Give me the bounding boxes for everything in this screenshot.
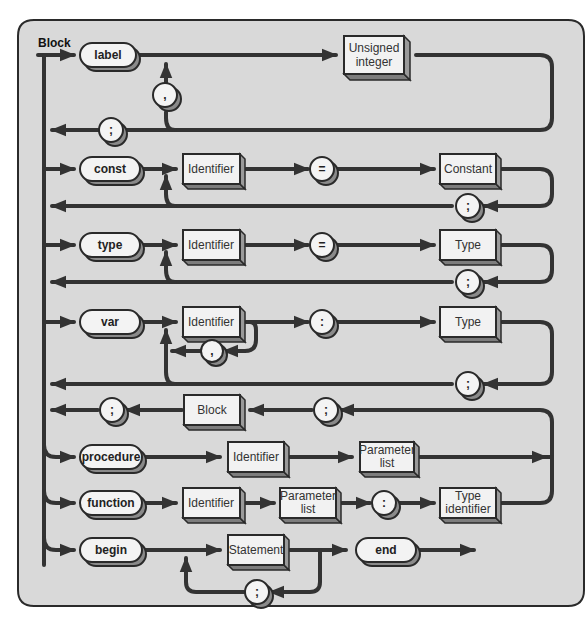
svg-text:Parameter: Parameter [359, 443, 415, 457]
svg-text:;: ; [109, 123, 113, 137]
parameter-list-box: Parameter list [280, 488, 341, 523]
svg-text:,: , [163, 88, 166, 102]
parameter-list-box: Parameter list [359, 442, 419, 477]
svg-text:Type: Type [455, 238, 481, 252]
svg-text:const: const [94, 162, 126, 176]
svg-text:Unsigned: Unsigned [349, 41, 400, 55]
svg-text:Identifier: Identifier [188, 162, 234, 176]
keyword-begin-pill: begin [80, 538, 146, 566]
block-syntax-diagram: Block label Unsigned integer , [0, 0, 588, 644]
keyword-var-pill: var [80, 310, 144, 338]
svg-text:begin: begin [95, 543, 127, 557]
svg-text:list: list [380, 456, 395, 470]
svg-text::: : [382, 496, 386, 510]
svg-text:var: var [101, 315, 119, 329]
svg-text:procedure: procedure [82, 450, 141, 464]
svg-text:,: , [210, 344, 213, 358]
constant-box: Constant [440, 154, 501, 189]
block-box: Block [184, 395, 245, 430]
svg-text:Identifier: Identifier [233, 450, 279, 464]
svg-text:=: = [318, 238, 325, 252]
identifier-box: Identifier [228, 442, 289, 477]
keyword-const-pill: const [80, 157, 144, 185]
svg-text:list: list [301, 502, 316, 516]
svg-text:function: function [87, 496, 134, 510]
svg-text:Statement: Statement [229, 543, 284, 557]
svg-text:Constant: Constant [444, 162, 493, 176]
unsigned-integer-box: Unsigned integer [344, 36, 410, 80]
svg-text:;: ; [466, 199, 470, 213]
svg-text:identifier: identifier [445, 502, 490, 516]
svg-text:Type: Type [455, 315, 481, 329]
svg-text:Identifier: Identifier [188, 238, 234, 252]
statement-box: Statement [228, 535, 289, 570]
type-identifier-box: Type identifier [440, 488, 501, 523]
svg-text:integer: integer [356, 55, 393, 69]
svg-text:Block: Block [197, 403, 227, 417]
svg-text:end: end [375, 543, 396, 557]
svg-text:label: label [94, 48, 121, 62]
svg-text:;: ; [110, 403, 114, 417]
svg-text:;: ; [466, 275, 470, 289]
type-box: Type [440, 230, 501, 265]
keyword-function-pill: function [80, 491, 146, 519]
keyword-end-pill: end [356, 538, 420, 566]
identifier-box: Identifier [183, 307, 245, 342]
diagram-title: Block [38, 36, 71, 50]
svg-text:Type: Type [455, 489, 481, 503]
svg-text:Identifier: Identifier [188, 496, 234, 510]
type-box: Type [440, 307, 501, 342]
svg-text:;: ; [255, 585, 259, 599]
identifier-box: Identifier [183, 154, 245, 189]
identifier-box: Identifier [183, 488, 245, 523]
keyword-label-pill: label [80, 43, 140, 71]
keyword-type-pill: type [80, 233, 144, 261]
svg-text::: : [320, 315, 324, 329]
svg-text:type: type [98, 238, 123, 252]
svg-text:Parameter: Parameter [280, 489, 336, 503]
svg-text:;: ; [466, 377, 470, 391]
svg-text:;: ; [324, 403, 328, 417]
keyword-procedure-pill: procedure [80, 445, 146, 473]
svg-text:=: = [318, 162, 325, 176]
identifier-box: Identifier [183, 230, 245, 265]
svg-text:Identifier: Identifier [188, 315, 234, 329]
